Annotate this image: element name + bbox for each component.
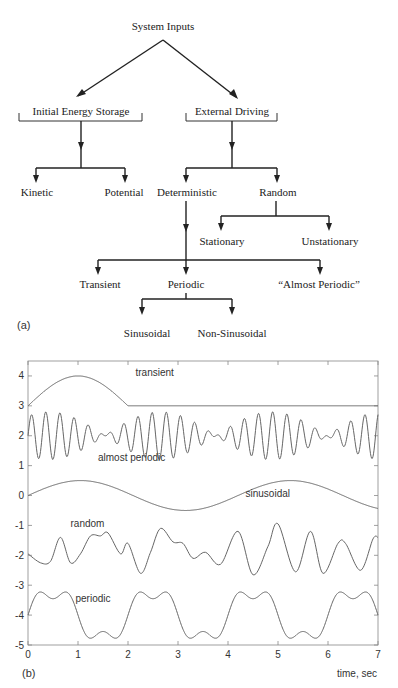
y-tick-label: 0 <box>18 490 24 501</box>
arrowhead-icon <box>122 175 128 183</box>
x-tick-label: 3 <box>175 649 181 660</box>
node-transient: Transient <box>79 278 120 290</box>
arrowhead-icon <box>229 142 235 150</box>
node-non-sinusoidal: Non-Sinusoidal <box>197 327 266 339</box>
panel-label-b: (b) <box>22 667 35 679</box>
curve-label-almost-periodic: almost periodic <box>98 452 165 463</box>
node-initial-energy-storage: Initial Energy Storage <box>33 105 130 117</box>
node-external-driving: External Driving <box>195 105 270 117</box>
y-tick-label: -3 <box>15 580 24 591</box>
curve-label-transient: transient <box>136 367 175 378</box>
node-stationary: Stationary <box>199 235 245 247</box>
arrowhead-icon <box>183 175 189 183</box>
curve-labels: transientalmost periodicsinusoidalrandom… <box>71 367 290 604</box>
node-sinusoidal: Sinusoidal <box>124 327 170 339</box>
x-tick-labels: 01234567 <box>25 649 381 660</box>
node-random: Random <box>259 186 297 198</box>
figure: System Inputs Initial Energy Storage Kin… <box>0 0 398 688</box>
x-tick-label: 0 <box>25 649 31 660</box>
arrowhead-icon <box>229 307 235 315</box>
curve-label-periodic: periodic <box>76 593 111 604</box>
x-tick-label: 1 <box>75 649 81 660</box>
classification-diagram: System Inputs Initial Energy Storage Kin… <box>17 20 360 339</box>
node-kinetic: Kinetic <box>21 186 53 198</box>
x-tick-label: 4 <box>225 649 231 660</box>
y-tick-label: -2 <box>15 550 24 561</box>
y-tick-label: 3 <box>18 400 24 411</box>
y-tick-label: -1 <box>15 520 24 531</box>
arrowhead-icon <box>183 224 189 232</box>
x-tick-label: 7 <box>375 649 381 660</box>
curve-almost-periodic <box>28 412 378 460</box>
y-tick-labels: 43210-1-2-3-4-5 <box>15 370 24 650</box>
arrowhead-icon <box>76 89 86 97</box>
curve-label-random: random <box>71 518 105 529</box>
y-tick-label: 4 <box>18 370 24 381</box>
arrowhead-icon <box>274 175 280 183</box>
arrowhead-icon <box>229 89 238 99</box>
arrowhead-icon <box>317 267 323 275</box>
arrowhead-icon <box>95 267 101 275</box>
signal-chart: 43210-1-2-3-4-5 01234567 transientalmost… <box>15 361 381 679</box>
y-tick-label: 1 <box>18 460 24 471</box>
node-system-inputs: System Inputs <box>132 20 195 32</box>
curve-sinusoidal <box>28 481 378 511</box>
x-tick-label: 2 <box>125 649 131 660</box>
y-tick-label: -4 <box>15 610 24 621</box>
arrowhead-icon <box>218 223 224 231</box>
curve-label-sinusoidal: sinusoidal <box>246 488 290 499</box>
curve-transient <box>28 376 378 406</box>
arrowhead-icon <box>183 267 189 275</box>
arrowhead-icon <box>139 307 145 315</box>
arrowhead-icon <box>326 223 332 231</box>
arrowhead-icon <box>78 142 84 150</box>
panel-label-a: (a) <box>17 319 30 331</box>
y-tick-label: -5 <box>15 640 24 651</box>
x-axis-label: time, sec <box>337 668 377 679</box>
x-tick-label: 5 <box>275 649 281 660</box>
y-tick-label: 2 <box>18 430 24 441</box>
node-unstationary: Unstationary <box>302 235 359 247</box>
node-potential: Potential <box>104 186 143 198</box>
curve-random <box>28 523 378 575</box>
arrowhead-icon <box>33 175 39 183</box>
node-almost-periodic: “Almost Periodic” <box>278 278 360 290</box>
node-periodic: Periodic <box>168 278 205 290</box>
node-deterministic: Deterministic <box>157 186 217 198</box>
x-tick-label: 6 <box>325 649 331 660</box>
root-branches <box>76 40 238 99</box>
